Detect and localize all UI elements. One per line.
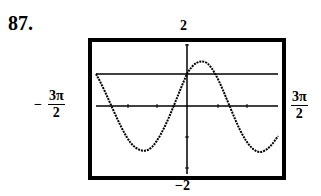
graph <box>0 0 321 196</box>
